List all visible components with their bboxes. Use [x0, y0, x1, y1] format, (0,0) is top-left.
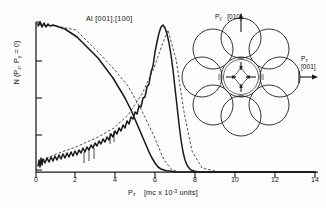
- error-bars: [84, 131, 114, 163]
- x-tick-14: 14: [307, 176, 323, 183]
- x-tick-4: 4: [107, 176, 123, 183]
- inset-fermi-surface: [182, 13, 318, 136]
- inset-py-label: Py [010]: [215, 13, 242, 21]
- x-tick-6: 6: [147, 176, 163, 183]
- curve-second-zone: [38, 25, 315, 172]
- x-tick-2: 2: [67, 176, 83, 183]
- y-axis-ticks: [36, 22, 42, 170]
- figure-container: Al [001],[100] N (Pz, Py = 0): [0, 0, 326, 208]
- x-tick-0: 0: [28, 176, 44, 183]
- x-tick-10: 10: [227, 176, 243, 183]
- x-tick-12: 12: [267, 176, 283, 183]
- inset-pz-label: Pz[001]: [301, 56, 316, 71]
- theory-dashed-decreasing: [38, 25, 180, 172]
- x-axis-label: Pz [mc x 10-3 units]: [0, 188, 326, 197]
- x-tick-8: 8: [187, 176, 203, 183]
